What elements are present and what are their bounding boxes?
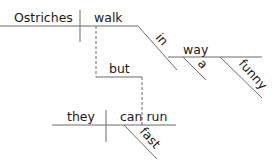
second-subject: they — [67, 109, 96, 124]
second-verb: can run — [120, 109, 167, 124]
main-subject: Ostriches — [14, 10, 73, 25]
preposition-diagonal — [138, 26, 177, 70]
conjunction-but: but — [109, 61, 130, 76]
sentence-diagram: Ostriches walk in way a funny but they c… — [0, 0, 279, 164]
modifier-funny: funny — [236, 56, 271, 93]
modifier-fast: fast — [137, 124, 164, 152]
main-verb: walk — [94, 10, 123, 25]
modifier-a: a — [195, 56, 211, 72]
prep-object-way: way — [183, 42, 209, 57]
